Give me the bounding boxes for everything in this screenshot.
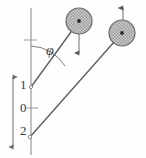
scale-tick-label-1: 1 [20,78,27,91]
pivot-point-lower [28,135,32,139]
angle-phi-label: φ [46,44,54,58]
mass-left-center-dot [77,19,81,23]
scale-tick-label-0: 0 [20,101,27,114]
pivot-point-upper [29,85,32,88]
physics-diagram-figure: φ 1 0 2 [0,0,146,158]
mass-right-center-dot [120,31,124,35]
scale-tick-label-2: 2 [20,124,27,137]
